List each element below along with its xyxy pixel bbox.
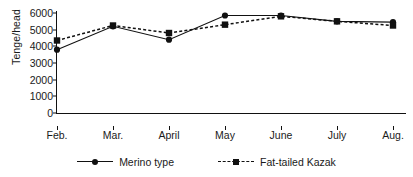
legend-item-0[interactable]: Merino type — [77, 156, 174, 168]
line-chart: Tenge/head 0100020003000400050006000 Feb… — [0, 0, 413, 177]
x-tick-label: May — [215, 129, 235, 141]
legend-label: Fat-tailed Kazak — [260, 156, 336, 168]
x-tick-label: Mar. — [103, 129, 123, 141]
legend-label: Merino type — [119, 156, 174, 168]
data-point-marker — [222, 21, 228, 27]
series-lines — [57, 13, 405, 113]
data-point-marker — [54, 47, 60, 53]
legend-swatch-circle-icon — [77, 156, 113, 168]
legend-swatch-square-icon — [218, 156, 254, 168]
y-tick-label: 2000 — [30, 74, 53, 86]
data-point-marker — [334, 18, 340, 24]
data-point-marker — [166, 37, 172, 43]
x-tick-label: June — [270, 129, 293, 141]
y-axis-title: Tenge/head — [10, 0, 24, 87]
y-tick-label: 1000 — [30, 90, 53, 102]
y-tick-label: 5000 — [30, 24, 53, 36]
data-point-marker — [390, 22, 396, 28]
data-point-marker — [166, 30, 172, 36]
chart-legend: Merino typeFat-tailed Kazak — [0, 152, 413, 172]
y-tick-label: 4000 — [30, 40, 53, 52]
series-line-0 — [57, 16, 393, 50]
data-point-marker — [110, 22, 116, 28]
data-point-marker — [278, 13, 284, 19]
x-tick-label: Feb. — [46, 129, 67, 141]
x-tick-label: Aug. — [382, 129, 404, 141]
data-point-marker — [54, 37, 60, 43]
data-point-marker — [222, 12, 228, 18]
legend-item-1[interactable]: Fat-tailed Kazak — [218, 156, 336, 168]
y-tick-label: 3000 — [30, 57, 53, 69]
y-tick-label: 6000 — [30, 7, 53, 19]
x-tick-label: April — [158, 129, 179, 141]
x-axis-line — [56, 113, 406, 114]
x-tick-label: July — [328, 129, 347, 141]
plot-area: 0100020003000400050006000 Feb.Mar.AprilM… — [57, 13, 405, 113]
